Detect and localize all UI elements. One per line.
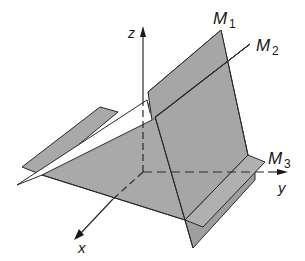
plane-m3-subscript: 3 <box>284 157 291 171</box>
x-axis <box>80 199 113 234</box>
three-planes-diagram: z y x M 1 M 2 M 3 <box>0 0 305 261</box>
plane-m3-label: M <box>268 149 283 168</box>
z-axis-arrow-icon <box>140 26 146 37</box>
plane-m1-label: M <box>213 9 228 28</box>
plane-m1-subscript: 1 <box>229 17 236 31</box>
plane-m2-label: M <box>256 36 271 55</box>
plane-m2-subscript: 2 <box>272 44 279 58</box>
z-axis-label: z <box>127 25 135 41</box>
y-axis-label: y <box>277 179 287 196</box>
x-axis-label: x <box>77 239 86 256</box>
